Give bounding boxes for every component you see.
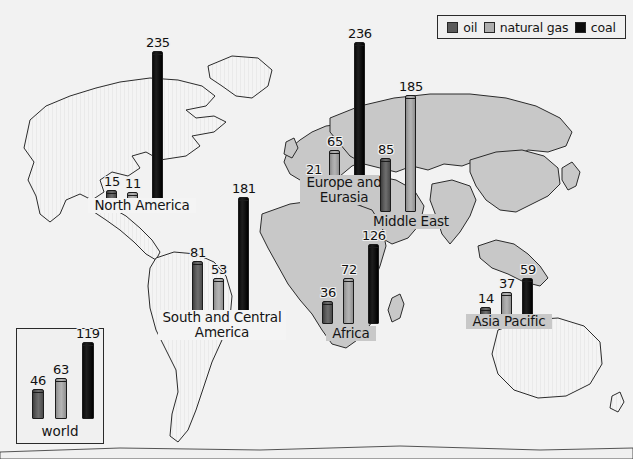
bar-rect-gas — [405, 95, 416, 212]
region-label-europe-eurasia: Europe and Eurasia — [300, 175, 388, 205]
legend-swatch-natural-gas-icon — [484, 22, 495, 33]
region-label-north-america: North America — [88, 198, 196, 213]
legend-label-coal: coal — [591, 20, 616, 35]
legend-swatch-coal-icon — [575, 22, 586, 33]
world-inset-panel: 46 63 119 world — [16, 328, 104, 444]
bar-rect-oil — [322, 301, 333, 324]
bar-africa-gas: 72 — [341, 263, 357, 324]
bar-value-south-central-america-gas: 53 — [211, 263, 227, 276]
region-label-south-central-america: South and Central America — [158, 310, 286, 340]
bar-group-north-america: 15 11 235 — [104, 40, 170, 200]
bar-europe-eurasia-coal: 236 — [348, 27, 372, 192]
bar-world-oil: 46 — [30, 374, 46, 419]
bar-rect-coal — [82, 342, 94, 419]
bar-group-south-central-america: 81 53 181 — [190, 172, 256, 312]
bar-value-north-america-gas: 11 — [125, 177, 141, 190]
bar-value-world-gas: 63 — [53, 363, 69, 376]
bar-rect-coal — [354, 42, 365, 192]
bar-rect-oil — [32, 389, 44, 419]
legend-swatch-oil-icon — [447, 22, 458, 33]
bar-rect-gas — [213, 278, 224, 312]
bar-value-south-central-america-coal: 181 — [232, 182, 256, 195]
bar-africa-coal: 126 — [362, 229, 386, 324]
bar-world-coal: 119 — [76, 327, 100, 419]
bar-value-world-oil: 46 — [30, 374, 46, 387]
bar-middle-east-gas: 185 — [399, 80, 423, 212]
legend-item-natural-gas: natural gas — [484, 20, 569, 35]
bar-value-asia-pacific-gas: 37 — [499, 277, 515, 290]
bar-group-africa: 36 72 126 — [320, 232, 386, 324]
bar-north-america-coal: 235 — [146, 36, 170, 200]
bar-middle-east-oil: 85 — [378, 143, 394, 212]
legend-item-oil: oil — [447, 20, 477, 35]
region-label-asia-pacific: Asia Pacific — [466, 314, 552, 329]
bar-group-middle-east: 85 185 — [378, 84, 423, 212]
world-inset-label: world — [17, 423, 103, 439]
figure-root: 15 11 235 North America 81 53 181 South … — [0, 0, 633, 459]
bar-value-europe-eurasia-gas: 65 — [327, 135, 343, 148]
bar-group-world: 46 63 119 — [30, 335, 100, 419]
bar-value-africa-gas: 72 — [341, 263, 357, 276]
region-label-africa: Africa — [326, 326, 376, 341]
bar-rect-oil — [192, 261, 203, 312]
bar-rect-coal — [152, 51, 163, 200]
bar-group-asia-pacific: 14 37 59 — [478, 258, 536, 316]
bar-rect-coal — [522, 278, 533, 316]
bar-south-central-america-oil: 81 — [190, 246, 206, 312]
bar-asia-pacific-coal: 59 — [520, 263, 536, 316]
legend-label-oil: oil — [463, 20, 477, 35]
bar-south-central-america-coal: 181 — [232, 182, 256, 312]
region-label-middle-east: Middle East — [368, 214, 454, 229]
bar-value-asia-pacific-coal: 59 — [520, 263, 536, 276]
bar-rect-coal — [368, 244, 379, 324]
bar-value-europe-eurasia-coal: 236 — [348, 27, 372, 40]
legend-label-natural-gas: natural gas — [500, 20, 569, 35]
bar-value-north-america-oil: 15 — [104, 175, 120, 188]
bar-value-asia-pacific-oil: 14 — [478, 292, 494, 305]
bar-value-middle-east-oil: 85 — [378, 143, 394, 156]
bar-africa-oil: 36 — [320, 286, 336, 324]
bar-group-europe-eurasia: 21 65 236 — [306, 22, 372, 192]
legend: oil natural gas coal — [437, 15, 626, 39]
bar-value-south-central-america-oil: 81 — [190, 246, 206, 259]
bar-value-world-coal: 119 — [76, 327, 100, 340]
legend-item-coal: coal — [575, 20, 616, 35]
bar-value-africa-oil: 36 — [320, 286, 336, 299]
bar-rect-gas — [343, 278, 354, 324]
bar-rect-gas — [55, 378, 67, 419]
bar-asia-pacific-gas: 37 — [499, 277, 515, 316]
bar-rect-coal — [238, 197, 249, 312]
bar-value-middle-east-gas: 185 — [399, 80, 423, 93]
bar-value-north-america-coal: 235 — [146, 36, 170, 49]
bar-value-africa-coal: 126 — [362, 229, 386, 242]
bar-world-gas: 63 — [53, 363, 69, 419]
bar-rect-oil — [380, 158, 391, 212]
bar-south-central-america-gas: 53 — [211, 263, 227, 312]
